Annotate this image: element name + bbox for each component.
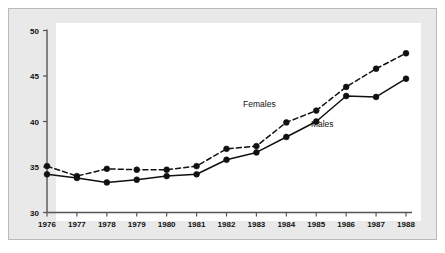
- data-point: [224, 146, 230, 152]
- data-point: [74, 175, 80, 181]
- x-tick-label: 1983: [248, 220, 266, 229]
- line-chart: 3035404550 19761977197819791980198119821…: [0, 0, 445, 253]
- y-tick-label: 45: [30, 72, 39, 81]
- data-point: [403, 50, 409, 56]
- x-tick-label: 1988: [397, 220, 415, 229]
- data-point: [194, 163, 200, 169]
- data-point: [343, 93, 349, 99]
- x-tick-label: 1980: [158, 220, 176, 229]
- data-point: [134, 177, 140, 183]
- x-tick-label: 1981: [188, 220, 206, 229]
- x-tick-label: 1984: [277, 220, 295, 229]
- y-axis: 3035404550: [30, 27, 47, 218]
- data-point: [343, 84, 349, 90]
- x-tick-label: 1985: [307, 220, 325, 229]
- data-point: [283, 120, 289, 126]
- data-point: [194, 171, 200, 177]
- data-series-group: [44, 50, 409, 185]
- x-tick-label: 1987: [367, 220, 385, 229]
- data-point: [224, 157, 230, 163]
- x-tick-label: 1979: [128, 220, 146, 229]
- data-point: [254, 143, 260, 149]
- x-axis: 1976197719781979198019811982198319841985…: [38, 213, 415, 229]
- x-tick-label: 1982: [218, 220, 236, 229]
- y-axis-ticks: 3035404550: [30, 27, 47, 218]
- data-point: [313, 108, 319, 114]
- series-label-females: Females: [243, 99, 276, 109]
- data-point: [164, 173, 170, 179]
- data-point: [403, 76, 409, 82]
- data-point: [283, 134, 289, 140]
- x-axis-ticks: 1976197719781979198019811982198319841985…: [38, 213, 415, 229]
- series-line-males: [47, 79, 406, 183]
- x-tick-label: 1976: [38, 220, 56, 229]
- data-point: [104, 180, 110, 186]
- series-label-males: Males: [311, 119, 334, 129]
- x-tick-label: 1978: [98, 220, 116, 229]
- series-males: [44, 76, 409, 186]
- y-tick-label: 35: [30, 163, 39, 172]
- y-tick-label: 50: [30, 27, 39, 36]
- x-tick-label: 1986: [337, 220, 355, 229]
- y-tick-label: 40: [30, 118, 39, 127]
- data-point: [373, 66, 379, 72]
- y-tick-label: 30: [30, 209, 39, 218]
- x-tick-label: 1977: [68, 220, 86, 229]
- data-point: [44, 163, 50, 169]
- data-point: [373, 94, 379, 100]
- data-point: [254, 150, 260, 156]
- data-point: [164, 167, 170, 173]
- data-point: [44, 171, 50, 177]
- data-point: [134, 167, 140, 173]
- data-point: [104, 166, 110, 172]
